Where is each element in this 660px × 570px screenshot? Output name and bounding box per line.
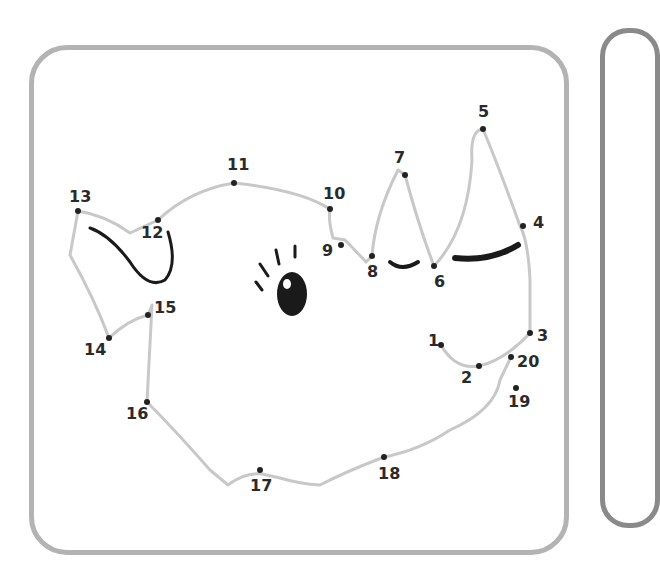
dot-number: 9 [322,243,333,259]
dot-number: 2 [461,370,472,386]
dot-number: 18 [378,466,400,482]
dot-number: 10 [323,186,345,202]
adjacent-panel-frame [600,28,660,528]
dot-number: 7 [394,150,405,166]
dot-number: 3 [537,328,548,344]
dot-number: 15 [154,300,176,316]
dot-number: 16 [126,406,148,422]
dot-number: 14 [84,342,106,358]
dot-number: 6 [434,274,445,290]
dot [402,172,408,178]
dot [381,454,387,460]
dot [520,223,526,229]
dot [106,335,112,341]
dot [476,363,482,369]
dot-number: 11 [227,157,249,173]
closed-eye-large [455,245,518,259]
dot [338,242,344,248]
dot [513,385,519,391]
open-eye [277,272,307,316]
closed-eye-small [390,262,418,267]
dot-number: 13 [69,189,91,205]
dot-number: 1 [428,333,439,349]
dot-number: 4 [533,215,544,231]
dot [231,180,237,186]
dot [327,206,333,212]
dot-number: 8 [367,264,378,280]
dot [369,253,375,259]
dot [145,312,151,318]
dot-number: 5 [478,104,489,120]
dot-number: 20 [517,354,539,370]
dot [257,467,263,473]
dot-number: 19 [508,394,530,410]
dot [480,126,486,132]
dot-number: 17 [250,478,272,494]
dot-number: 12 [141,225,163,241]
dot [527,330,533,336]
dot [508,354,514,360]
dot [431,263,437,269]
dot [75,208,81,214]
